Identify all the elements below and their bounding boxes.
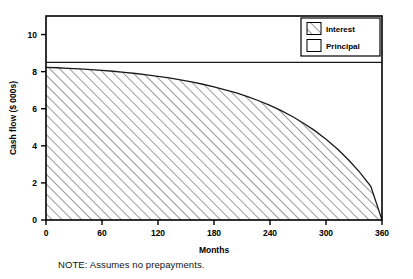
y-axis-label: Cash flow ($ 000s) [8, 81, 18, 155]
y-tick-label: 4 [32, 141, 37, 151]
y-tick-label: 0 [32, 215, 37, 225]
chart-legend: Interest Principal [301, 18, 380, 56]
y-tick-label: 2 [32, 178, 37, 188]
x-tick-label: 240 [263, 228, 277, 238]
x-tick-label: 180 [207, 228, 221, 238]
x-tick-label: 60 [97, 228, 107, 238]
y-tick-label: 6 [32, 104, 37, 114]
x-tick-label: 300 [319, 228, 333, 238]
x-tick-label: 120 [151, 228, 165, 238]
cash-flow-chart: 0246810 060120180240300360 Cash flow ($ … [0, 0, 413, 279]
x-tick-label: 360 [375, 228, 389, 238]
legend-swatch-interest [307, 23, 321, 35]
x-axis-ticks: 060120180240300360 [44, 220, 390, 238]
y-axis-ticks: 0246810 [28, 30, 46, 225]
legend-label-principal: Principal [326, 42, 360, 51]
x-axis-label: Months [199, 245, 229, 255]
y-tick-label: 8 [32, 67, 37, 77]
y-tick-label: 10 [28, 30, 38, 40]
legend-swatch-principal [307, 40, 321, 52]
legend-label-interest: Interest [326, 25, 355, 34]
figure-note: NOTE: Assumes no prepayments. [58, 259, 205, 270]
amortization-figure: 0246810 060120180240300360 Cash flow ($ … [0, 0, 413, 279]
x-tick-label: 0 [44, 228, 49, 238]
